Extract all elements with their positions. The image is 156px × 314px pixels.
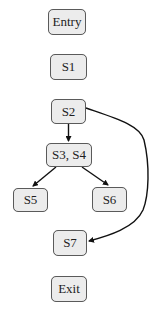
node-s1: S1 <box>50 54 87 80</box>
node-label: Entry <box>53 14 82 30</box>
node-s3-s4: S3, S4 <box>46 143 92 167</box>
node-exit: Exit <box>51 276 87 302</box>
node-label: S6 <box>103 192 117 208</box>
node-s5: S5 <box>13 188 48 212</box>
control-flow-diagram: Entry S1 S2 S3, S4 S5 S6 S7 Exit <box>0 0 156 314</box>
node-label: Exit <box>58 281 80 297</box>
node-label: S5 <box>24 192 38 208</box>
edge-s3s4-to-s6 <box>82 167 108 185</box>
node-s7: S7 <box>53 230 87 256</box>
node-label: S7 <box>63 235 77 251</box>
node-s6: S6 <box>92 187 127 212</box>
node-label: S2 <box>62 104 76 120</box>
node-s2: S2 <box>51 99 86 124</box>
edge-s3s4-to-s5 <box>33 167 56 186</box>
node-label: S1 <box>62 59 76 75</box>
node-entry: Entry <box>48 9 86 35</box>
edge-s2-to-s7 <box>86 108 148 241</box>
node-label: S3, S4 <box>52 147 86 163</box>
